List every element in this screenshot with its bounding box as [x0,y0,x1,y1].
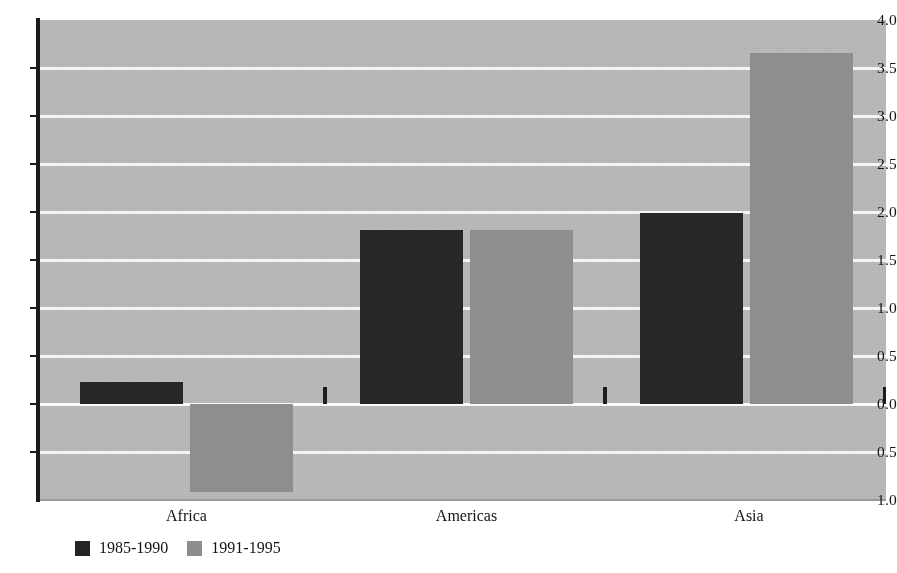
bar-asia-1985-1990 [640,213,743,404]
y-axis-tick-label: 3.0 [861,108,897,124]
y-axis-tick-mark [30,211,40,213]
category-label-africa: Africa [80,508,293,524]
legend-swatch-icon-1991-1995 [187,541,202,556]
y-axis-tick-mark [30,163,40,165]
plot-area [40,20,886,500]
y-axis-tick-label: 1.5 [861,252,897,268]
bar-africa-1985-1990 [80,382,183,404]
gridline [40,451,886,454]
y-axis-tick-label: 0.5 [861,444,897,460]
legend-label-1985-1990: 1985-1990 [99,540,168,556]
legend-label-1991-1995: 1991-1995 [211,540,280,556]
y-axis-tick-mark [30,259,40,261]
category-label-asia: Asia [640,508,858,524]
legend-item-1985-1990: 1985-1990 [75,540,168,556]
y-axis-tick-mark [30,115,40,117]
bar-americas-1991-1995 [470,230,573,404]
y-axis-tick-mark [30,451,40,453]
y-axis-tick-label: 0.5 [861,348,897,364]
bar-chart-figure: 4.03.53.02.52.01.51.00.50.00.51.0 Africa… [0,0,897,573]
bar-africa-1991-1995 [190,404,293,492]
y-axis-tick-label: 0.0 [861,396,897,412]
legend-item-1991-1995: 1991-1995 [187,540,280,556]
y-axis-tick-mark [30,403,40,405]
y-axis-tick-label: 2.0 [861,204,897,220]
edge-tick-stub [603,387,607,404]
bar-asia-1991-1995 [750,53,853,404]
y-axis-tick-mark [30,307,40,309]
y-axis-tick-label: 4.0 [861,12,897,28]
y-axis-tick-label: 1.0 [861,300,897,316]
y-axis-tick-mark [30,355,40,357]
y-axis-tick-mark [30,67,40,69]
chart-legend: 1985-1990 1991-1995 [75,540,281,556]
y-axis-tick-label: 1.0 [861,492,897,508]
bar-americas-1985-1990 [360,230,463,404]
x-axis-baseline [40,499,886,501]
legend-swatch-icon-1985-1990 [75,541,90,556]
category-label-americas: Americas [360,508,573,524]
y-axis-tick-label: 2.5 [861,156,897,172]
edge-tick-stub [323,387,327,404]
y-axis-tick-label: 3.5 [861,60,897,76]
